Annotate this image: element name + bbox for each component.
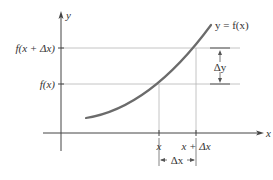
x-axis-label: x <box>265 127 271 139</box>
x-tick-label-x: x <box>156 140 162 152</box>
y-tick-label-lower: f(x) <box>40 78 56 91</box>
function-increment-diagram: y x y = f(x) f(x + Δx) f(x) x x + Δx Δy … <box>0 0 273 180</box>
y-tick-label-upper: f(x + Δx) <box>15 42 55 55</box>
function-curve <box>86 25 211 118</box>
dx-arrow-right-icon <box>190 158 195 162</box>
x-tick-label-x-plus-dx: x + Δx <box>180 140 210 152</box>
curve-label: y = f(x) <box>215 19 249 32</box>
y-axis-label: y <box>65 9 71 21</box>
dy-arrow-down-icon <box>218 78 222 83</box>
delta-y-label: Δy <box>214 61 227 73</box>
delta-x-label: Δx <box>171 154 184 166</box>
dy-arrow-up-icon <box>218 50 222 55</box>
dx-arrow-left-icon <box>160 158 165 162</box>
